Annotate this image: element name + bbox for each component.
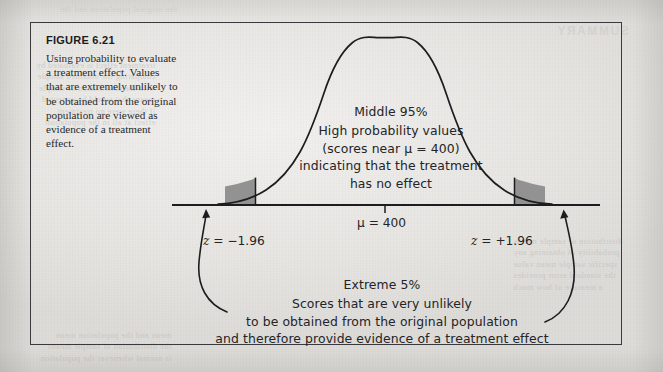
extreme-line-1: Scores that are very unlikely: [212, 295, 552, 312]
z-negative-value: = −1.96: [213, 234, 264, 248]
middle-region-annotation: Middle 95% High probability values (scor…: [281, 103, 501, 192]
middle-line-2: (scores near μ = 400): [281, 140, 501, 157]
middle-line-3: indicating that the treatment: [281, 157, 501, 174]
extreme-line-2: to be obtained from the original populat…: [212, 313, 552, 330]
extreme-line-3: and therefore provide evidence of a trea…: [212, 330, 552, 347]
z-symbol-positive: z: [471, 234, 477, 248]
figure-caption: FIGURE 6.21 Using probability to evaluat…: [46, 34, 178, 150]
z-positive-value: = +1.96: [481, 234, 532, 248]
z-positive-label: z = +1.96: [471, 234, 533, 248]
middle-line-1: High probability values: [281, 122, 501, 139]
extreme-region-annotation: Extreme 5% Scores that are very unlikely…: [212, 276, 552, 348]
middle-line-4: has no effect: [281, 175, 501, 192]
middle-heading: Middle 95%: [281, 103, 501, 120]
figure-number-label: FIGURE 6.21: [46, 34, 178, 46]
z-symbol-negative: z: [203, 234, 209, 248]
figure-caption-text: Using probability to evaluate a treatmen…: [46, 51, 178, 150]
mean-axis-label: μ = 400: [357, 216, 406, 230]
z-negative-label: z = −1.96: [203, 234, 265, 248]
extreme-heading: Extreme 5%: [212, 276, 552, 293]
